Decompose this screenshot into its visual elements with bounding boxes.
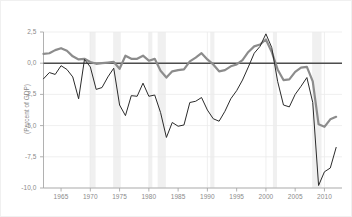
recession-band [149, 32, 153, 188]
xtick-marks-group [40, 32, 324, 192]
x-tick-label: 2000 [252, 193, 280, 200]
y-tick-label: -5,0 [25, 122, 37, 129]
series-line-1 [44, 39, 337, 126]
x-tick-label: 2005 [281, 193, 309, 200]
x-tick-label: 1975 [106, 193, 134, 200]
x-tick-label: 1965 [47, 193, 75, 200]
recession-band [158, 32, 166, 188]
series-group [44, 34, 337, 186]
gridlines-group [44, 32, 343, 188]
chart-figure: (Percent of GDP) 2,50,0-2,5-5,0-7,5-10,0… [0, 0, 352, 217]
x-tick-label: 1995 [223, 193, 251, 200]
axis-lines-group [44, 32, 343, 188]
x-tick-label: 1970 [76, 193, 104, 200]
y-tick-label: -2,5 [25, 90, 37, 97]
x-tick-label: 1980 [135, 193, 163, 200]
series-line-2 [44, 34, 337, 186]
x-tick-label: 1985 [164, 193, 192, 200]
chart-plot-area [1, 1, 352, 217]
x-tick-label: 1990 [193, 193, 221, 200]
y-tick-label: 2,5 [27, 28, 36, 35]
recession-band [210, 32, 214, 188]
y-tick-label: 0,0 [27, 59, 36, 66]
recession-band [113, 32, 121, 188]
y-tick-label: -10,0 [21, 184, 36, 191]
y-tick-label: -7,5 [25, 153, 37, 160]
x-tick-label: 2010 [310, 193, 338, 200]
